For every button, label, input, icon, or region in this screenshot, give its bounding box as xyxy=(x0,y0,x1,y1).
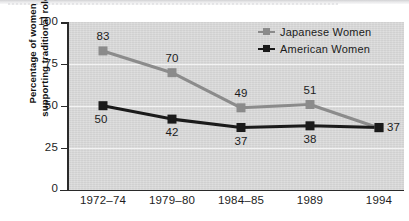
data-label-american-1984-85: 37 xyxy=(234,135,247,147)
data-label-american-1972-74: 50 xyxy=(94,113,107,125)
data-label-1994-shared: 37 xyxy=(387,121,400,133)
legend-label-american-women: American Women xyxy=(280,43,370,55)
line-chart-figure: 100 75 50 25 0 1972–74 1979–80 1984–85 1… xyxy=(0,0,409,221)
legend-marker-american-women xyxy=(258,43,275,54)
data-label-american-1989: 38 xyxy=(303,133,316,145)
legend-marker-japanese-women xyxy=(258,26,275,37)
legend-label-japanese-women: Japanese Women xyxy=(280,26,371,38)
chart-legend: Japanese Women American Women xyxy=(258,24,371,58)
data-label-japanese-1984-85: 49 xyxy=(234,87,247,99)
data-label-american-1979-80: 42 xyxy=(165,126,178,138)
data-label-japanese-1989: 51 xyxy=(303,84,316,96)
legend-item-japanese-women: Japanese Women xyxy=(258,24,371,39)
legend-item-american-women: American Women xyxy=(258,41,371,56)
data-label-japanese-1972-74: 83 xyxy=(96,30,109,42)
data-label-japanese-1979-80: 70 xyxy=(165,52,178,64)
